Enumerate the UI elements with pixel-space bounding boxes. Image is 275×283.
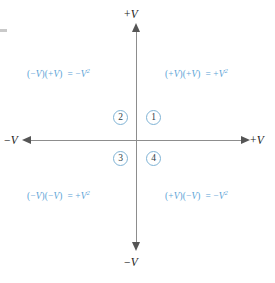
axis-label-left-variable: V	[11, 134, 18, 146]
quadrant-number-2: 2	[113, 110, 128, 125]
axis-label-left-sign: −	[4, 134, 11, 146]
close-paren: )	[59, 191, 62, 201]
axis-label-top-sign: +	[124, 8, 131, 20]
quadrant-diagram: +V −V −V +V (−V)(+V) = −V2 (+V)(+V) = +V…	[0, 0, 275, 283]
quadrant-1-equation: (+V)(+V) = +V2	[165, 69, 228, 79]
axis-label-left: −V	[4, 134, 18, 146]
result-exponent: 2	[87, 189, 90, 196]
quadrant-number-4: 4	[146, 151, 161, 166]
vertical-axis-line	[136, 31, 137, 243]
scan-artifact-mark	[0, 29, 7, 32]
result-exponent: 2	[225, 189, 228, 196]
axis-arrow-up-icon	[132, 23, 140, 32]
close-paren: )	[59, 69, 62, 79]
equals-sign: =	[67, 69, 72, 79]
axis-arrow-left-icon	[22, 136, 31, 144]
close-paren: )	[197, 191, 200, 201]
axis-label-top: +V	[124, 8, 138, 20]
quadrant-4-equation: (+V)(−V) = −V2	[165, 191, 228, 201]
axis-label-top-variable: V	[131, 8, 138, 20]
axis-arrow-right-icon	[241, 136, 250, 144]
axis-label-bottom-variable: V	[131, 256, 138, 268]
axis-label-bottom: −V	[124, 256, 138, 268]
close-paren: )	[197, 69, 200, 79]
equals-sign: =	[67, 191, 72, 201]
horizontal-axis-line	[30, 140, 242, 141]
axis-label-right-variable: V	[257, 134, 264, 146]
quadrant-number-3: 3	[113, 151, 128, 166]
equals-sign: =	[205, 69, 210, 79]
axis-label-bottom-sign: −	[124, 256, 131, 268]
result-exponent: 2	[225, 67, 228, 74]
result-exponent: 2	[87, 67, 90, 74]
axis-label-right: +V	[250, 134, 264, 146]
quadrant-3-equation: (−V)(−V) = +V2	[27, 191, 90, 201]
quadrant-number-1: 1	[146, 110, 161, 125]
equals-sign: =	[205, 191, 210, 201]
axis-arrow-down-icon	[132, 242, 140, 251]
quadrant-2-equation: (−V)(+V) = −V2	[27, 69, 90, 79]
axis-label-right-sign: +	[250, 134, 257, 146]
